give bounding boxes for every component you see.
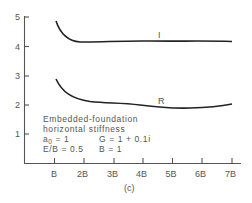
y-tick-label-4: 4 bbox=[15, 42, 20, 52]
annotation-line-1: Embedded-foundation bbox=[43, 114, 138, 124]
x-tick-label-7b: 7B bbox=[225, 169, 236, 179]
stiffness-chart: 5 4 3 2 1 B 2B 3B 4B 5B 6B 7B I R Embedd… bbox=[0, 0, 252, 203]
annotation-b: B = 1 bbox=[99, 144, 122, 154]
y-tick-label-1: 1 bbox=[15, 129, 20, 139]
curve-i bbox=[56, 21, 232, 42]
x-tick-label-b: B bbox=[51, 169, 57, 179]
annotation-g: G = 1 + 0.1i bbox=[99, 134, 151, 144]
y-ticks bbox=[25, 17, 30, 134]
x-tick-label-2b: 2B bbox=[77, 169, 88, 179]
curve-r bbox=[56, 79, 232, 108]
y-tick-label-2: 2 bbox=[15, 100, 20, 110]
annotation-line-2: horizontal stiffness bbox=[43, 124, 125, 134]
curve-i-label: I bbox=[158, 30, 161, 40]
figure-caption: (c) bbox=[124, 183, 135, 193]
curve-r-label: R bbox=[158, 96, 165, 106]
x-ticks bbox=[55, 158, 233, 164]
y-tick-label-5: 5 bbox=[15, 12, 20, 22]
x-tick-label-5b: 5B bbox=[166, 169, 177, 179]
x-tick-label-3b: 3B bbox=[107, 169, 118, 179]
x-tick-label-4b: 4B bbox=[136, 169, 147, 179]
y-tick-label-3: 3 bbox=[15, 71, 20, 81]
annotation: Embedded-foundation horizontal stiffness… bbox=[43, 114, 151, 154]
x-tick-label-6b: 6B bbox=[195, 169, 206, 179]
annotation-eb: E/B = 0.5 bbox=[43, 144, 84, 154]
